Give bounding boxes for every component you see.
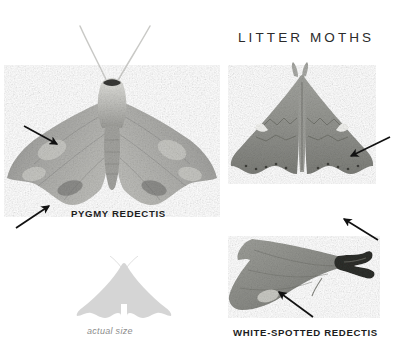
specimen-white-spotted-redectis-lateral — [228, 236, 380, 324]
left-wing — [231, 78, 300, 174]
page-title: LITTER MOTHS — [238, 30, 374, 45]
silhouette-body — [77, 263, 172, 318]
specimen-white-spotted-redectis — [228, 62, 376, 194]
lateral-wing — [229, 239, 346, 310]
specimen-pygmy-redectis — [4, 22, 220, 217]
species-label-pygmy-redectis: PYGMY REDECTIS — [71, 208, 166, 219]
actual-size-silhouette — [72, 256, 176, 322]
antennae-icon — [80, 26, 150, 84]
abdomen — [104, 126, 120, 190]
litter-moths-plate: LITTER MOTHS — [0, 0, 398, 358]
actual-size-caption: actual size — [87, 326, 133, 336]
abdomen-tuft — [334, 251, 374, 278]
lateral-leg — [312, 278, 322, 296]
species-label-white-spotted-redectis: WHITE-SPOTTED REDECTIS — [233, 327, 378, 338]
labial-palps — [292, 62, 308, 77]
right-wing — [305, 78, 374, 174]
